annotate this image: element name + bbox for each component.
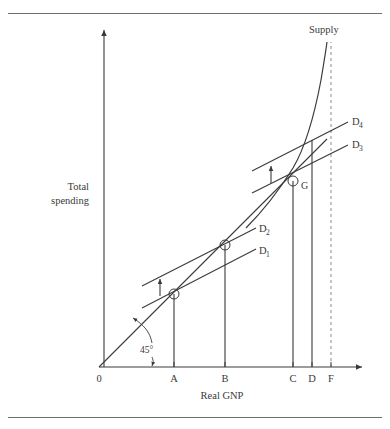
figure-root: 45° Supply D 4 D 3 D 2 D 1 G [0,0,390,429]
x-axis-tick-labels: 0 A B C D F [96,373,334,384]
y-axis-title-line2: spending [51,195,90,206]
x-tick-label-D: D [308,373,316,384]
x-tick-label-B: B [221,373,228,384]
demand-curve-3-subscript: 3 [359,144,363,153]
demand-curve-2-label-group: D 2 [259,223,270,237]
y-axis-title-line1: Total [68,181,90,192]
equilibrium-point-G-label: G [301,180,308,191]
demand-curve-2 [142,228,256,286]
demand-curve-3 [252,145,348,193]
demand-curve-2-subscript: 2 [266,228,270,237]
demand-curve-3-label-group: D 3 [352,139,363,153]
x-tick-label-0: 0 [96,373,101,384]
x-tick-label-A: A [170,373,178,384]
x-tick-label-F: F [328,373,334,384]
supply-curve [246,42,327,228]
demand-curve-4 [252,122,348,171]
angle-label: 45° [140,345,154,355]
demand-curve-1-label-group: D 1 [259,245,270,259]
axes-group [99,30,362,367]
economics-diagram: 45° Supply D 4 D 3 D 2 D 1 G [0,0,390,429]
supply-curve-label: Supply [309,24,340,35]
demand-curve-1-subscript: 1 [266,250,270,259]
demand-curve-4-label-group: D 4 [352,116,363,130]
x-tick-label-C: C [289,373,296,384]
angle-annotation: 45° [133,318,154,366]
demand-curve-1 [142,249,256,308]
angle-leader-lower [152,357,153,366]
demand-curve-4-subscript: 4 [359,121,363,130]
x-axis-ticks [174,362,331,367]
shift-arrows [160,166,271,296]
x-axis-title: Real GNP [201,390,244,401]
equilibrium-points [169,176,298,299]
